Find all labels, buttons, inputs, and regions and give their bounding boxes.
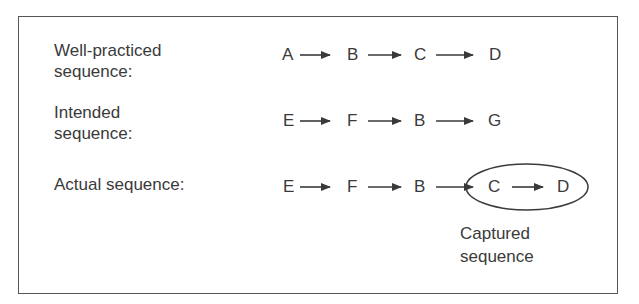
caption-line: Captured [460, 222, 534, 245]
caption-line: sequence [460, 245, 534, 268]
captured-caption: Captured sequence [460, 222, 534, 268]
arrows-layer [0, 0, 639, 304]
